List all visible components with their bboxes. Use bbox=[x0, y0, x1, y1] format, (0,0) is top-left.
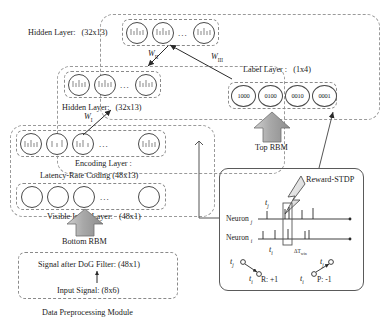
encoding-layer-label: Encoding Layer : bbox=[75, 160, 132, 168]
pair-right-pre-label: ti bbox=[300, 275, 304, 285]
label-node-1-text: 0100 bbox=[259, 86, 282, 106]
top-rbm-label: Top RBM bbox=[255, 144, 288, 152]
visible-neuron-n bbox=[138, 186, 160, 208]
delta-t-window-label: ΔTwin bbox=[294, 249, 307, 256]
hidden2-ellipsis: ... bbox=[178, 29, 188, 38]
encoding-neuron-3 bbox=[72, 133, 94, 155]
reward-stdp-title: Reward-STDP bbox=[306, 176, 354, 184]
reward-stdp-panel bbox=[219, 168, 364, 291]
bottom-rbm-label: Bottom RBM bbox=[62, 238, 107, 246]
encoding-layer-coding-label: Latency-Rate Coding (48x13) bbox=[40, 172, 138, 180]
weight-w3-label: WIII bbox=[211, 53, 223, 63]
visible-input-layer-label: Visible Input Layer: (48x1) bbox=[47, 213, 141, 221]
figure-canvas: Hidden Layer: (32x13) ... ... Hidden Lay… bbox=[0, 0, 383, 328]
hidden2-neuron-2 bbox=[152, 22, 174, 44]
label-node-2-text: 0010 bbox=[286, 86, 309, 106]
hidden2-neuron-1 bbox=[126, 22, 148, 44]
encoding-neuron-1 bbox=[20, 133, 42, 155]
hidden2-neuron-n bbox=[193, 22, 215, 44]
encoding-ellipsis: ... bbox=[99, 140, 109, 149]
hidden1-neuron-2 bbox=[94, 74, 116, 96]
pair-right-post-label: tj bbox=[320, 258, 324, 268]
stdp-to-label-connector bbox=[319, 112, 333, 168]
hidden-layer-2-label: Hidden Layer: (32x13) bbox=[28, 29, 107, 37]
hidden1-neuron-n bbox=[135, 74, 157, 96]
hidden1-ellipsis: ... bbox=[120, 81, 130, 90]
label-node-3-text: 0001 bbox=[313, 86, 336, 106]
visible-ellipsis: ... bbox=[100, 193, 110, 202]
t-j-top-label: tj bbox=[265, 199, 269, 209]
input-signal-label: Input Signal: (8x6) bbox=[57, 287, 119, 295]
encoding-neuron-2 bbox=[46, 133, 68, 155]
weight-w1-label: WI bbox=[84, 113, 93, 123]
hidden1-neuron-1 bbox=[68, 74, 90, 96]
pair-left-post-label: ti bbox=[249, 275, 253, 285]
pair-right-result-label: P: -1 bbox=[317, 276, 332, 284]
neuron-i-label: Neuroni bbox=[226, 234, 252, 244]
visible-neuron-2 bbox=[47, 186, 69, 208]
neuron-j-label: Neuronj bbox=[226, 215, 252, 225]
visible-neuron-3 bbox=[73, 186, 95, 208]
encoding-neuron-n bbox=[138, 133, 160, 155]
label-node-3: 0001 bbox=[312, 85, 337, 107]
pair-left-result-label: R: +1 bbox=[261, 276, 278, 284]
pair-left-pre-label: tj bbox=[230, 258, 234, 268]
t-i-axis-label: ti bbox=[269, 246, 273, 256]
label-node-0-text: 1000 bbox=[232, 86, 255, 106]
label-node-2: 0010 bbox=[285, 85, 310, 107]
dog-filter-label: Signal after DoG Filter: (48x1) bbox=[38, 261, 140, 269]
weight-w2-label: WII bbox=[148, 50, 158, 60]
preprocessing-module-caption: Data Preprocessing Module bbox=[42, 309, 133, 317]
label-node-0: 1000 bbox=[231, 85, 256, 107]
visible-neuron-1 bbox=[21, 186, 43, 208]
hidden-layer-1-label: Hidden Layer: (32x13) bbox=[62, 104, 141, 112]
label-node-1: 0100 bbox=[258, 85, 283, 107]
label-layer-title: Label Layer : (1x4) bbox=[243, 66, 311, 74]
